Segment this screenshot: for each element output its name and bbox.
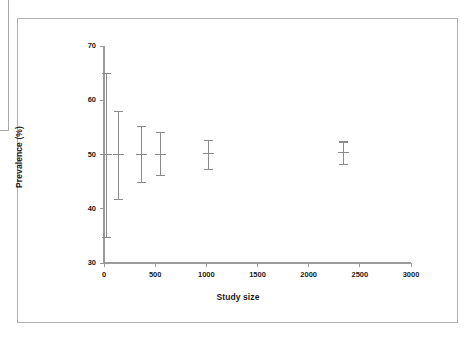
y-axis-title: Prevalence (%) — [14, 107, 24, 207]
y-tick-label: 60 — [66, 95, 96, 104]
error-bar-marker — [101, 73, 112, 237]
error-bar-marker — [203, 140, 214, 169]
error-bar-marker — [155, 133, 166, 175]
error-bar-series — [101, 73, 349, 237]
error-bar-marker — [136, 126, 147, 182]
y-tick-label: 30 — [66, 258, 96, 267]
x-tick-label: 500 — [135, 270, 175, 279]
y-tick-label: 50 — [66, 150, 96, 159]
y-tick-label: 70 — [66, 41, 96, 50]
x-tick-label: 3000 — [391, 270, 431, 279]
y-tick-label: 40 — [66, 204, 96, 213]
error-bar-marker — [113, 111, 124, 199]
x-tick-label: 1500 — [238, 270, 278, 279]
tick-marks-layer — [100, 46, 411, 267]
x-tick-label: 0 — [84, 270, 124, 279]
x-tick-label: 1000 — [186, 270, 226, 279]
scatter-plot-canvas — [0, 0, 476, 341]
axes-layer — [104, 46, 411, 263]
x-axis-title: Study size — [0, 292, 476, 302]
error-bar-marker — [338, 142, 349, 165]
x-tick-label: 2000 — [289, 270, 329, 279]
x-tick-label: 2500 — [340, 270, 380, 279]
